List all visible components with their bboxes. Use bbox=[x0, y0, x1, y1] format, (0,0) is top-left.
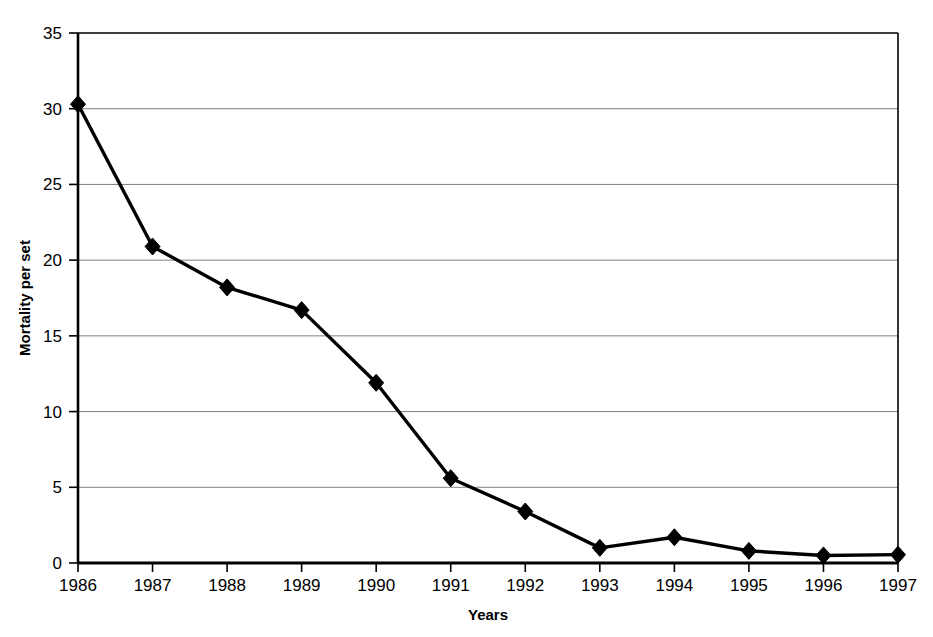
y-axis-tick-label: 5 bbox=[53, 478, 62, 497]
chart-background bbox=[0, 0, 933, 637]
x-axis-tick-label: 1989 bbox=[283, 576, 321, 595]
x-axis-tick-label: 1987 bbox=[134, 576, 172, 595]
x-axis-tick-label: 1991 bbox=[432, 576, 470, 595]
y-axis-tick-label: 10 bbox=[43, 403, 62, 422]
y-axis-tick-label: 20 bbox=[43, 251, 62, 270]
x-axis-tick-label: 1992 bbox=[506, 576, 544, 595]
y-axis-tick-label: 0 bbox=[53, 554, 62, 573]
x-axis-tick-label: 1988 bbox=[208, 576, 246, 595]
line-chart: 05101520253035 1986198719881989199019911… bbox=[0, 0, 933, 637]
x-axis-tick-label: 1995 bbox=[730, 576, 768, 595]
x-axis-tick-label: 1993 bbox=[581, 576, 619, 595]
y-axis-tick-label: 15 bbox=[43, 327, 62, 346]
y-axis-title: Mortality per set bbox=[16, 240, 33, 356]
x-axis-tick-label: 1997 bbox=[879, 576, 917, 595]
chart-container: 05101520253035 1986198719881989199019911… bbox=[0, 0, 933, 637]
x-axis-tick-label: 1996 bbox=[805, 576, 843, 595]
x-axis-title: Years bbox=[468, 606, 508, 623]
y-axis-tick-label: 30 bbox=[43, 100, 62, 119]
x-axis-tick-label: 1986 bbox=[59, 576, 97, 595]
x-axis-tick-label: 1994 bbox=[655, 576, 693, 595]
y-axis-tick-label: 35 bbox=[43, 24, 62, 43]
y-axis-tick-label: 25 bbox=[43, 175, 62, 194]
x-axis-tick-label: 1990 bbox=[357, 576, 395, 595]
